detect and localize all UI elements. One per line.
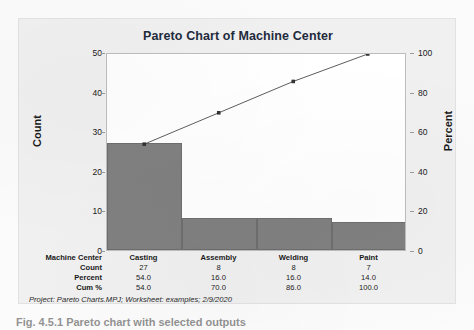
table-cell: 16.0 (256, 273, 331, 283)
y-axis-right-tick-mark (410, 53, 414, 54)
y-axis-left-tick-mark (101, 251, 105, 252)
table-cell: 16.0 (181, 273, 256, 283)
table-cell: Assembly (181, 253, 256, 263)
y-axis-right-tick-label: 20 (418, 206, 444, 216)
table-row-label: Count (27, 263, 106, 273)
table-row-label: Percent (27, 273, 106, 283)
y-axis-right-tick-mark (410, 251, 414, 252)
cumulative-marker-assembly (217, 111, 221, 115)
y-axis-right-tick-mark (410, 172, 414, 173)
y-axis-left-tick-label: 20 (76, 167, 102, 177)
table-cell: 14.0 (331, 273, 406, 283)
table-row: Cum %54.070.086.0100.0 (27, 283, 427, 293)
table-cell: 27 (106, 263, 181, 273)
plot-area (106, 53, 406, 251)
plot-inner (107, 54, 405, 250)
data-table: Machine CenterCastingAssemblyWeldingPain… (27, 253, 427, 293)
table-cell: 7 (331, 263, 406, 273)
cumulative-percent-line (107, 54, 405, 250)
y-axis-left-tick-label: 40 (76, 88, 102, 98)
table-row: Count27887 (27, 263, 427, 273)
table-cell: Welding (256, 253, 331, 263)
cumulative-line-path (144, 54, 368, 144)
y-axis-left: 01020304050 (72, 53, 102, 251)
table-row-label: Machine Center (27, 253, 106, 263)
chart-title: Pareto Chart of Machine Center (19, 29, 457, 43)
y-axis-right: 020406080100 (410, 53, 440, 251)
table-cell: 70.0 (181, 283, 256, 293)
table-cell: 54.0 (106, 283, 181, 293)
y-axis-right-tick-mark (410, 93, 414, 94)
y-axis-left-tick-mark (101, 172, 105, 173)
y-axis-right-tick-mark (410, 211, 414, 212)
chart-footer: Project: Pareto Charts.MPJ; Worksheet: e… (29, 295, 232, 304)
table-cell: 100.0 (331, 283, 406, 293)
y-axis-left-tick-mark (101, 211, 105, 212)
y-axis-right-title: Percent (442, 91, 454, 171)
table-cell: 86.0 (256, 283, 331, 293)
figure-caption: Fig. 4.5.1 Pareto chart with selected ou… (16, 316, 246, 328)
y-axis-left-tick-mark (101, 93, 105, 94)
table-cell: 8 (181, 263, 256, 273)
table-row: Percent54.016.016.014.0 (27, 273, 427, 283)
y-axis-left-title: Count (31, 91, 43, 171)
table-cell: Paint (331, 253, 406, 263)
cumulative-marker-paint (366, 54, 370, 56)
table-cell: 54.0 (106, 273, 181, 283)
y-axis-left-tick-label: 10 (76, 206, 102, 216)
table-row: Machine CenterCastingAssemblyWeldingPain… (27, 253, 427, 263)
y-axis-right-tick-label: 40 (418, 167, 444, 177)
chart-panel: Pareto Chart of Machine Center 010203040… (18, 18, 456, 304)
y-axis-left-tick-label: 30 (76, 127, 102, 137)
y-axis-right-tick-mark (410, 132, 414, 133)
table-cell: Casting (106, 253, 181, 263)
table-cell: 8 (256, 263, 331, 273)
y-axis-right-tick-label: 80 (418, 88, 444, 98)
table-row-label: Cum % (27, 283, 106, 293)
y-axis-left-tick-mark (101, 132, 105, 133)
y-axis-right-tick-label: 100 (418, 48, 444, 58)
cumulative-marker-casting (142, 142, 146, 146)
cumulative-marker-welding (291, 80, 295, 84)
y-axis-left-tick-label: 50 (76, 48, 102, 58)
y-axis-right-tick-label: 60 (418, 127, 444, 137)
y-axis-left-tick-mark (101, 53, 105, 54)
